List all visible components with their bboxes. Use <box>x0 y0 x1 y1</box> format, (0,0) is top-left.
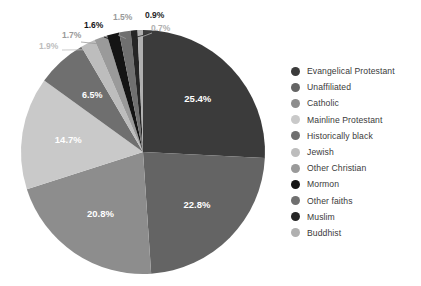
legend-item-label: Muslim <box>307 212 335 222</box>
legend-item-label: Unaffiliated <box>307 82 351 92</box>
legend-item[interactable]: Other faiths <box>291 193 419 209</box>
pie-chart-figure: 25.4%22.8%20.8%14.7%6.5%1.9%1.7%1.6%1.5%… <box>0 0 421 286</box>
legend-item[interactable]: Evangelical Protestant <box>291 63 419 79</box>
legend-item[interactable]: Mainline Protestant <box>291 112 419 128</box>
pie-slice-label: 1.6% <box>84 20 104 30</box>
pie-slice-label: 1.7% <box>62 30 82 40</box>
pie-slice-label: 6.5% <box>82 90 103 100</box>
pie-slice-label: 1.9% <box>39 41 59 51</box>
legend-item[interactable]: Unaffiliated <box>291 79 419 95</box>
legend-item-label: Mormon <box>307 179 339 189</box>
legend-swatch-icon <box>291 164 300 173</box>
legend-item-label: Buddhist <box>307 228 341 238</box>
legend-item-label: Jewish <box>307 147 334 157</box>
legend-swatch-icon <box>291 83 300 92</box>
legend-swatch-icon <box>291 67 300 76</box>
legend-swatch-icon <box>291 131 300 140</box>
legend-item-label: Other faiths <box>307 196 353 206</box>
legend-item-label: Historically black <box>307 131 373 141</box>
legend-item[interactable]: Jewish <box>291 144 419 160</box>
legend-item[interactable]: Historically black <box>291 128 419 144</box>
legend-item[interactable]: Muslim <box>291 209 419 225</box>
pie-slice-label: 1.5% <box>113 12 133 22</box>
legend-swatch-icon <box>291 228 300 237</box>
legend-item[interactable]: Mormon <box>291 176 419 192</box>
legend-swatch-icon <box>291 212 300 221</box>
legend-swatch-icon <box>291 196 300 205</box>
legend-swatch-icon <box>291 99 300 108</box>
legend-item-label: Other Christian <box>307 163 366 173</box>
pie-slice-label: 0.7% <box>151 23 171 33</box>
pie-slice-label: 0.9% <box>145 10 165 20</box>
legend-swatch-icon <box>291 148 300 157</box>
pie-slice-group <box>21 30 265 274</box>
legend-swatch-icon <box>291 180 300 189</box>
legend-item-label: Catholic <box>307 98 339 108</box>
chart-legend: Evangelical ProtestantUnaffiliatedCathol… <box>291 63 419 241</box>
legend-item-label: Mainline Protestant <box>307 115 382 125</box>
legend-item[interactable]: Other Christian <box>291 160 419 176</box>
pie-slice[interactable] <box>143 152 265 274</box>
pie-slice-label: 25.4% <box>184 93 211 104</box>
legend-item-label: Evangelical Protestant <box>307 66 395 76</box>
legend-swatch-icon <box>291 115 300 124</box>
legend-item[interactable]: Buddhist <box>291 225 419 241</box>
pie-slice-label: 14.7% <box>55 134 82 145</box>
pie-slice-label: 22.8% <box>184 199 211 210</box>
legend-item[interactable]: Catholic <box>291 95 419 111</box>
pie-slice-label: 20.8% <box>87 208 114 219</box>
